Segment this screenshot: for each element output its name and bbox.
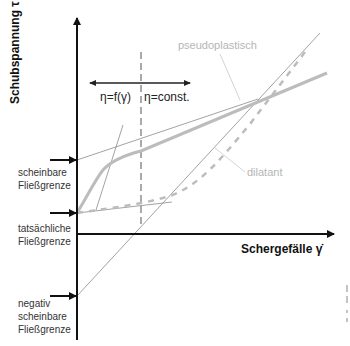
negative-yield-line3: Fließgrenze <box>18 323 71 336</box>
apparent-yield-line1: scheinbare <box>18 166 71 179</box>
actual-yield-line1: tatsächliche <box>18 222 71 235</box>
dilatant-curve <box>77 52 305 213</box>
negative-yield-line1: negativ <box>18 297 71 310</box>
region-right-label: η=const. <box>144 90 190 104</box>
pseudoplastic-leader <box>220 54 240 100</box>
negative-yield-label: negativ scheinbare Fließgrenze <box>18 297 71 336</box>
y-axis-label: Schubspannung τ <box>8 1 22 104</box>
x-axis-label: Schergefälle γ̇ <box>241 242 322 256</box>
steep-tangent-line <box>96 125 123 210</box>
actual-yield-label: tatsächliche Fließgrenze <box>18 222 71 248</box>
apparent-yield-label: scheinbare Fließgrenze <box>18 166 71 192</box>
region-left-label: η=f(γ) <box>100 90 131 104</box>
dilatant-label: dilatant <box>247 166 282 178</box>
dilatant-tangent-line <box>77 33 320 296</box>
apparent-yield-line2: Fließgrenze <box>18 179 71 192</box>
actual-yield-line2: Fließgrenze <box>18 235 71 248</box>
pseudoplastic-label: pseudoplastisch <box>178 39 257 51</box>
negative-yield-line2: scheinbare <box>18 310 71 323</box>
